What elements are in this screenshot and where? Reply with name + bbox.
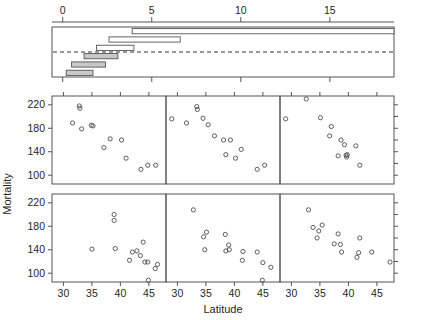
panel-top-left-y-axis: 100140180220 — [27, 98, 52, 180]
data-point[interactable] — [240, 258, 244, 262]
data-point[interactable] — [90, 247, 94, 251]
y-tick-label: 100 — [27, 267, 45, 279]
interval-bar[interactable] — [84, 54, 118, 59]
panel-top-middle-frame — [166, 96, 280, 184]
data-point[interactable] — [206, 123, 210, 127]
data-point[interactable] — [204, 230, 208, 234]
data-point[interactable] — [261, 261, 265, 265]
panel-top-right-points — [284, 97, 362, 167]
data-point[interactable] — [339, 138, 343, 142]
data-point[interactable] — [304, 97, 308, 101]
data-point[interactable] — [320, 223, 324, 227]
data-point[interactable] — [146, 163, 150, 167]
interval-bar[interactable] — [66, 70, 93, 75]
data-point[interactable] — [327, 134, 331, 138]
data-point[interactable] — [339, 250, 343, 254]
interval-bar[interactable] — [97, 45, 134, 50]
data-point[interactable] — [191, 208, 195, 212]
x-axis-title: Latitude — [203, 303, 242, 315]
panel-bottom-middle-points — [191, 208, 273, 283]
data-point[interactable] — [130, 250, 134, 254]
data-point[interactable] — [102, 146, 106, 150]
interval-bar[interactable] — [109, 37, 180, 42]
interval-bar[interactable] — [72, 62, 106, 67]
panel-bottom-right-points — [306, 208, 392, 264]
data-point[interactable] — [80, 127, 84, 131]
data-point[interactable] — [336, 154, 340, 158]
data-point[interactable] — [124, 156, 128, 160]
data-point[interactable] — [127, 258, 131, 262]
panel-bottom-right-y-axis-right — [394, 203, 398, 273]
data-point[interactable] — [139, 167, 143, 171]
data-point[interactable] — [228, 138, 232, 142]
data-point[interactable] — [233, 156, 237, 160]
panel-top-left-frame — [52, 96, 166, 184]
data-point[interactable] — [306, 208, 310, 212]
x-tick-label: 30 — [286, 287, 298, 299]
data-point[interactable] — [223, 232, 227, 236]
data-point[interactable] — [311, 225, 315, 229]
panel-top-right-frame — [280, 96, 394, 184]
data-point[interactable] — [155, 262, 159, 266]
x-tick-label: 40 — [115, 287, 127, 299]
data-point[interactable] — [329, 124, 333, 128]
data-point[interactable] — [357, 251, 361, 255]
data-point[interactable] — [138, 254, 142, 258]
data-point[interactable] — [338, 242, 342, 246]
data-point[interactable] — [318, 116, 322, 120]
panel-bottom-middle: 30354045 — [166, 194, 280, 299]
data-point[interactable] — [284, 117, 288, 121]
panel-bottom-middle-x-axis: 30354045 — [172, 282, 269, 299]
data-point[interactable] — [146, 260, 150, 264]
data-point[interactable] — [358, 163, 362, 167]
data-point[interactable] — [332, 242, 336, 246]
data-point[interactable] — [108, 137, 112, 141]
panel-bottom-left-y-axis: 100140180220 — [27, 196, 52, 278]
panel-bottom-middle-frame — [166, 194, 280, 282]
data-point[interactable] — [358, 236, 362, 240]
data-point[interactable] — [113, 246, 117, 250]
data-point[interactable] — [370, 250, 374, 254]
data-point[interactable] — [269, 265, 273, 269]
panel-top-middle-points — [170, 104, 267, 171]
data-point[interactable] — [255, 250, 259, 254]
data-point[interactable] — [241, 249, 245, 253]
data-point[interactable] — [112, 218, 116, 222]
data-point[interactable] — [239, 147, 243, 151]
data-point[interactable] — [227, 243, 231, 247]
panel-top-right-x-axis — [291, 92, 377, 96]
data-point[interactable] — [203, 248, 207, 252]
data-point[interactable] — [153, 266, 157, 270]
interval-bar[interactable] — [132, 29, 394, 34]
data-point[interactable] — [221, 138, 225, 142]
interval-panel-x-axis: 051015 — [52, 4, 394, 22]
figure-container: 0510151001401802201001401802203035404530… — [0, 0, 421, 320]
data-point[interactable] — [355, 255, 359, 259]
data-point[interactable] — [263, 163, 267, 167]
data-point[interactable] — [184, 121, 188, 125]
data-point[interactable] — [212, 134, 216, 138]
data-point[interactable] — [154, 163, 158, 167]
data-point[interactable] — [342, 143, 346, 147]
data-point[interactable] — [119, 138, 123, 142]
panel-top-right-y-axis-right — [394, 105, 398, 175]
data-point[interactable] — [170, 117, 174, 121]
data-point[interactable] — [141, 240, 145, 244]
data-point[interactable] — [317, 229, 321, 233]
data-point[interactable] — [202, 235, 206, 239]
data-point[interactable] — [354, 144, 358, 148]
data-point[interactable] — [388, 260, 392, 264]
data-point[interactable] — [224, 153, 228, 157]
data-point[interactable] — [201, 116, 205, 120]
panel-top-left: 100140180220 — [27, 92, 166, 184]
statistical-figure: 0510151001401802201001401802203035404530… — [0, 0, 421, 320]
data-point[interactable] — [336, 232, 340, 236]
x-tick-label: 45 — [371, 287, 383, 299]
data-point[interactable] — [70, 121, 74, 125]
data-point[interactable] — [255, 167, 259, 171]
data-point[interactable] — [315, 236, 319, 240]
data-point[interactable] — [195, 107, 199, 111]
data-point[interactable] — [112, 212, 116, 216]
x-tick-label: 45 — [257, 287, 269, 299]
data-point[interactable] — [135, 249, 139, 253]
